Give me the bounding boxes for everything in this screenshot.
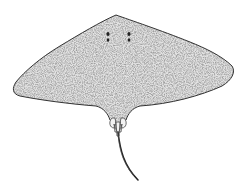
stingray-illustration <box>0 0 240 190</box>
tail <box>118 132 138 180</box>
stipple-texture <box>0 0 240 190</box>
